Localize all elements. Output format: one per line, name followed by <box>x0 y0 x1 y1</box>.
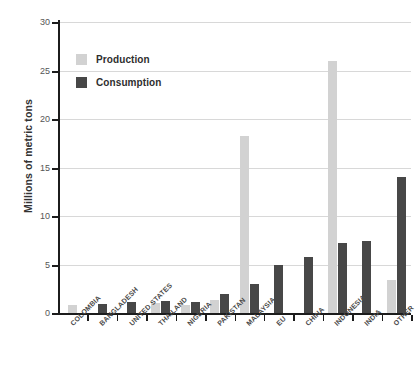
bar-consumption <box>127 302 136 313</box>
x-tick-mark <box>411 315 413 321</box>
legend-swatch-consumption-icon <box>76 77 87 88</box>
x-tick-mark <box>176 315 178 321</box>
x-tick-mark <box>235 315 237 321</box>
legend-swatch-production-icon <box>76 54 87 65</box>
x-tick-mark <box>352 315 354 321</box>
bar-consumption <box>98 304 107 313</box>
bar-consumption <box>274 265 283 314</box>
bar-consumption <box>362 241 371 313</box>
legend-label: Consumption <box>96 77 162 88</box>
bar-consumption <box>338 243 347 313</box>
x-tick-mark <box>382 315 384 321</box>
chart-legend: ProductionConsumption <box>76 50 162 96</box>
x-tick-mark <box>87 315 89 321</box>
x-tick-mark <box>117 315 119 321</box>
y-tick-label: 0 <box>24 308 50 318</box>
y-tick-label: 15 <box>24 163 50 173</box>
bar-consumption <box>304 257 313 313</box>
legend-label: Production <box>96 54 150 65</box>
legend-item-consumption[interactable]: Consumption <box>76 73 162 91</box>
bar-production <box>328 61 337 313</box>
bar-production <box>68 305 77 313</box>
x-tick-mark <box>146 315 148 321</box>
palm-oil-bar-chart: Millions of metric tons 051015202530 Pro… <box>0 0 420 383</box>
y-tick-label: 25 <box>24 66 50 76</box>
bar-production <box>210 300 219 313</box>
y-tick-label: 30 <box>24 17 50 27</box>
y-tick-mark <box>52 313 59 315</box>
x-tick-mark <box>323 315 325 321</box>
x-tick-mark <box>293 315 295 321</box>
bar-consumption <box>397 177 406 313</box>
x-tick-mark <box>264 315 266 321</box>
bar-production <box>387 280 396 313</box>
y-tick-label: 20 <box>24 114 50 124</box>
legend-item-production[interactable]: Production <box>76 50 162 68</box>
x-axis-category-label: EU <box>275 315 287 327</box>
bar-production <box>240 136 249 314</box>
x-tick-mark <box>205 315 207 321</box>
y-tick-label: 5 <box>24 260 50 270</box>
y-tick-label: 10 <box>24 211 50 221</box>
